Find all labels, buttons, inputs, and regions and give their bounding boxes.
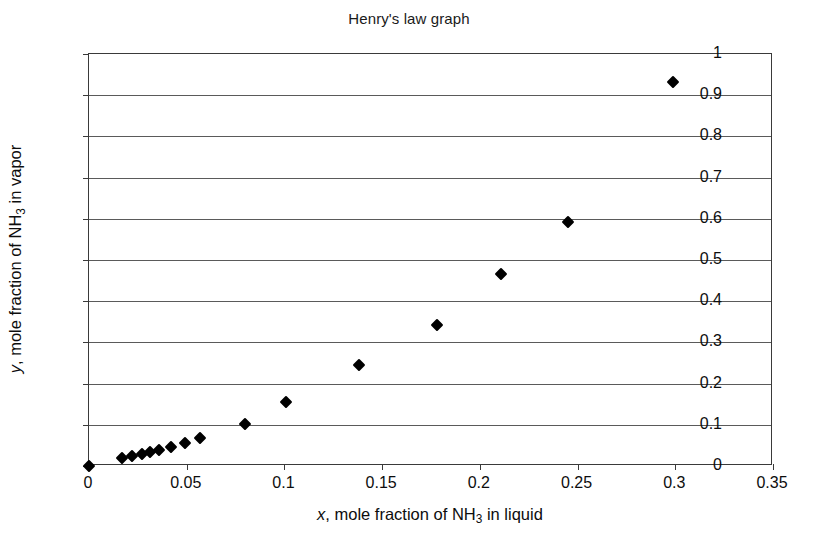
y-axis-tick-label: 0.2 (700, 374, 722, 392)
y-axis-tick (83, 219, 89, 220)
x-axis-tick (675, 464, 676, 470)
y-axis-tick (83, 384, 89, 385)
y-axis-tick-label: 0.8 (700, 126, 722, 144)
x-axis-tick (382, 464, 383, 470)
data-point (165, 441, 178, 454)
x-axis-tick-label: 0.05 (170, 474, 201, 492)
y-axis-tick (83, 425, 89, 426)
y-axis-label-container: y, mole fraction of NH3 in vapor (0, 53, 34, 465)
y-axis-subscript: 3 (14, 208, 28, 215)
x-axis-label: x, mole fraction of NH3 in liquid (88, 505, 772, 526)
gridline-horizontal (89, 219, 771, 220)
x-axis-tick-label: 0.15 (366, 474, 397, 492)
x-axis-tick-label: 0.2 (468, 474, 490, 492)
x-axis-text-after: in liquid (482, 505, 543, 523)
y-axis-tick-label: 0.7 (700, 168, 722, 186)
data-point (561, 216, 574, 229)
data-point (280, 396, 293, 409)
gridline-horizontal (89, 260, 771, 261)
x-axis-text-before: , mole fraction of NH (325, 505, 475, 523)
plot-area (88, 53, 772, 465)
data-point (430, 319, 443, 332)
y-axis-tick-label: 0.9 (700, 85, 722, 103)
chart-title: Henry's law graph (0, 10, 818, 27)
x-axis-tick (284, 464, 285, 470)
data-point (239, 417, 252, 430)
x-axis-tick-label: 0.3 (663, 474, 685, 492)
gridline-horizontal (89, 95, 771, 96)
data-point (495, 268, 508, 281)
x-axis-tick (187, 464, 188, 470)
y-axis-tick-label: 1 (713, 44, 722, 62)
chart-figure: Henry's law graph y, mole fraction of NH… (0, 0, 818, 553)
gridline-horizontal (89, 384, 771, 385)
data-point (667, 76, 680, 89)
x-axis-tick-label: 0 (84, 474, 93, 492)
data-point (194, 432, 207, 445)
y-axis-tick-label: 0.1 (700, 415, 722, 433)
y-axis-tick-label: 0.4 (700, 291, 722, 309)
x-axis-tick (480, 464, 481, 470)
y-axis-tick (83, 342, 89, 343)
gridline-horizontal (89, 425, 771, 426)
y-axis-tick (83, 54, 89, 55)
y-axis-tick-label: 0.6 (700, 209, 722, 227)
x-axis-tick-label: 0.35 (756, 474, 787, 492)
data-point (352, 359, 365, 372)
x-axis-tick (773, 464, 774, 470)
x-axis-tick (578, 464, 579, 470)
gridline-horizontal (89, 301, 771, 302)
x-axis-tick-label: 0.1 (272, 474, 294, 492)
y-axis-text-before: , mole fraction of NH (6, 215, 24, 365)
y-axis-text-after: in vapor (6, 145, 24, 208)
gridline-horizontal (89, 342, 771, 343)
y-axis-symbol: y (6, 365, 24, 373)
y-axis-tick-label: 0 (713, 456, 722, 474)
data-point (83, 460, 96, 473)
data-point (178, 437, 191, 450)
y-axis-tick (83, 178, 89, 179)
y-axis-tick (83, 136, 89, 137)
y-axis-tick (83, 95, 89, 96)
y-axis-tick-label: 0.3 (700, 332, 722, 350)
gridline-horizontal (89, 178, 771, 179)
y-axis-tick-label: 0.5 (700, 250, 722, 268)
gridline-horizontal (89, 136, 771, 137)
y-axis-label: y, mole fraction of NH3 in vapor (6, 145, 27, 374)
y-axis-tick (83, 301, 89, 302)
x-axis-tick-label: 0.25 (561, 474, 592, 492)
y-axis-tick (83, 260, 89, 261)
data-point (153, 443, 166, 456)
